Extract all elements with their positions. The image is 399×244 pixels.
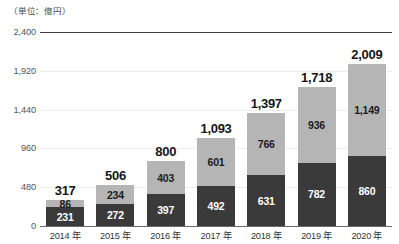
- bar-2016年: 397403800: [147, 161, 185, 226]
- bar-segment-bottom-label: 860: [348, 185, 386, 197]
- bar-segment-bottom-label: 272: [96, 209, 134, 221]
- bar-segment-top: 936: [298, 87, 336, 163]
- y-tick-label: 960: [0, 143, 36, 153]
- bar-segment-bottom: 860: [348, 156, 386, 226]
- plot-area: 231863172722345063974038004926011,093631…: [40, 32, 392, 226]
- bar-segment-top: 86: [46, 200, 84, 207]
- bar-2015年: 272234506: [96, 185, 134, 226]
- bar-total-label: 2,009: [330, 47, 399, 62]
- bar-segment-bottom-label: 492: [197, 200, 235, 212]
- bar-total-label: 1,093: [179, 121, 253, 136]
- y-tick-label: 1,440: [0, 105, 36, 115]
- bar-segment-top-label: 1,149: [348, 104, 386, 116]
- y-tick-label: 0: [0, 221, 36, 231]
- bar-segment-top-label: 766: [247, 138, 285, 150]
- gridline-1440: [40, 110, 392, 111]
- x-tick-label: 2015 年: [90, 228, 140, 242]
- bar-segment-top: 766: [247, 113, 285, 175]
- bar-segment-bottom: 492: [197, 186, 235, 226]
- unit-caption: （単位：億円）: [9, 4, 71, 16]
- bar-segment-bottom: 631: [247, 175, 285, 226]
- bar-2014年: 23186317: [46, 200, 84, 226]
- bar-2019年: 7829361,718: [298, 87, 336, 226]
- x-tick-label: 2020 年: [342, 228, 392, 242]
- bar-segment-top: 601: [197, 138, 235, 187]
- bar-segment-top-label: 936: [298, 119, 336, 131]
- bar-total-label: 800: [129, 144, 203, 159]
- bar-segment-top-label: 601: [197, 156, 235, 168]
- bar-segment-top-label: 86: [46, 198, 84, 210]
- x-tick-label: 2016 年: [141, 228, 191, 242]
- bar-segment-top-label: 403: [147, 172, 185, 184]
- bar-segment-bottom-label: 397: [147, 204, 185, 216]
- bar-total-label: 1,718: [280, 70, 354, 85]
- bar-segment-top: 403: [147, 161, 185, 194]
- y-tick-label: 1,920: [0, 66, 36, 76]
- x-axis: 2014 年2015 年2016 年2017 年2018 年2019 年2020…: [40, 228, 392, 244]
- bar-segment-bottom-label: 782: [298, 188, 336, 200]
- y-tick-label: 2,400: [0, 27, 36, 37]
- bar-2017年: 4926011,093: [197, 138, 235, 226]
- x-tick-label: 2014 年: [40, 228, 90, 242]
- bar-segment-bottom: 231: [46, 207, 84, 226]
- x-tick-label: 2018 年: [241, 228, 291, 242]
- gridline-0: [40, 226, 392, 227]
- bar-segment-top: 1,149: [348, 64, 386, 157]
- bar-segment-top-label: 234: [96, 189, 134, 201]
- bar-2018年: 6317661,397: [247, 113, 285, 226]
- bar-segment-bottom-label: 231: [46, 211, 84, 223]
- bar-total-label: 1,397: [229, 96, 303, 111]
- bar-segment-bottom: 782: [298, 163, 336, 226]
- bar-total-label: 506: [78, 168, 152, 183]
- x-tick-label: 2019 年: [291, 228, 341, 242]
- bar-segment-top: 234: [96, 185, 134, 204]
- bar-total-label: 317: [28, 183, 102, 198]
- bar-segment-bottom-label: 631: [247, 195, 285, 207]
- bar-segment-bottom: 272: [96, 204, 134, 226]
- bar-chart: （単位：億円） 04809601,4401,9202,400 231863172…: [0, 0, 399, 244]
- x-tick-label: 2017 年: [191, 228, 241, 242]
- gridline-2400: [40, 32, 392, 33]
- bar-segment-bottom: 397: [147, 194, 185, 226]
- bar-2020年: 8601,1492,009: [348, 64, 386, 226]
